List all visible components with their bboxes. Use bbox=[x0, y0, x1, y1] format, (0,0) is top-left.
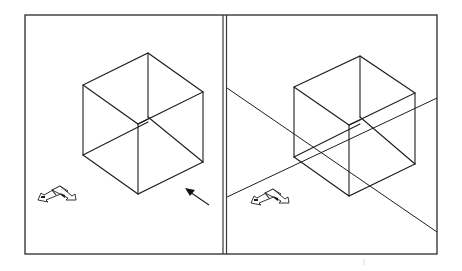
arrow-pointer-icon bbox=[185, 188, 209, 205]
ucs-icon bbox=[38, 186, 76, 202]
outer-frame bbox=[25, 15, 437, 254]
construction-line-a[interactable] bbox=[227, 88, 437, 232]
cad-drawing bbox=[0, 0, 462, 271]
left-viewport[interactable] bbox=[38, 53, 209, 205]
right-viewport[interactable] bbox=[227, 56, 437, 232]
left-cube bbox=[83, 53, 203, 194]
viewport-divider[interactable] bbox=[223, 15, 227, 254]
ucs-icon bbox=[251, 189, 289, 205]
